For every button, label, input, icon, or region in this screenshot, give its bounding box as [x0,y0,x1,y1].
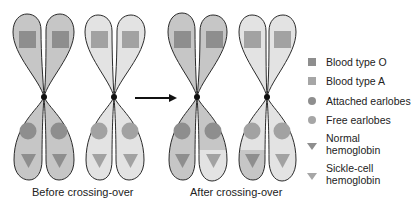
chromosome-after-1 [168,13,227,181]
legend-label: Normalhemoglobin [326,132,380,156]
blood-type-o-marker [206,31,223,48]
triangle-icon [307,140,317,150]
free-earlobes-marker [91,123,108,140]
chromosome-after-2 [239,15,296,181]
centromere [111,94,117,100]
centromere [41,94,47,100]
attached-earlobes-marker [51,123,68,140]
free-earlobes-marker [274,123,291,140]
free-earlobes-marker [122,123,139,140]
attached-earlobes-marker [205,123,222,140]
square-icon [307,76,317,86]
recombinant-chromatid [197,15,227,181]
caption-after: After crossing-over [190,186,282,198]
arrow-icon [135,94,177,102]
triangle-icon [307,170,317,180]
chromatid [85,15,114,180]
centromere [194,94,200,100]
blood-type-a-marker [274,31,291,48]
legend-item-free-earlobes: Free earlobes [307,114,391,126]
free-earlobes-marker [244,123,261,140]
chromatid [44,14,74,180]
blood-type-a-marker [244,31,261,48]
legend-label: Blood type O [326,56,387,68]
chromatid [13,14,44,180]
blood-type-a-marker [122,31,139,48]
legend-item-normal-hemoglobin: Normalhemoglobin [307,132,380,156]
attached-earlobes-marker [174,123,191,140]
blood-type-o-marker [174,31,191,48]
blood-type-o-marker [19,31,36,48]
chromatid [267,15,296,181]
blood-type-a-marker [91,31,108,48]
circle-icon [307,96,317,106]
legend-label: Sickle-cellhemoglobin [326,162,380,186]
chromosome-before-1 [13,14,74,180]
centromere [264,94,270,100]
circle-icon [307,115,317,125]
legend-item-sickle-cell-hemoglobin: Sickle-cellhemoglobin [307,162,380,186]
attached-earlobes-marker [20,123,37,140]
legend-item-blood-type-o: Blood type O [307,56,387,68]
legend-item-attached-earlobes: Attached earlobes [307,95,411,107]
legend-label: Blood type A [326,75,385,87]
blood-type-o-marker [52,31,69,48]
legend-label: Free earlobes [326,114,391,126]
recombinant-chromatid [239,15,267,180]
caption-before: Before crossing-over [32,186,134,198]
legend-item-blood-type-a: Blood type A [307,75,385,87]
legend-label: Attached earlobes [326,95,411,107]
square-icon [307,57,317,67]
